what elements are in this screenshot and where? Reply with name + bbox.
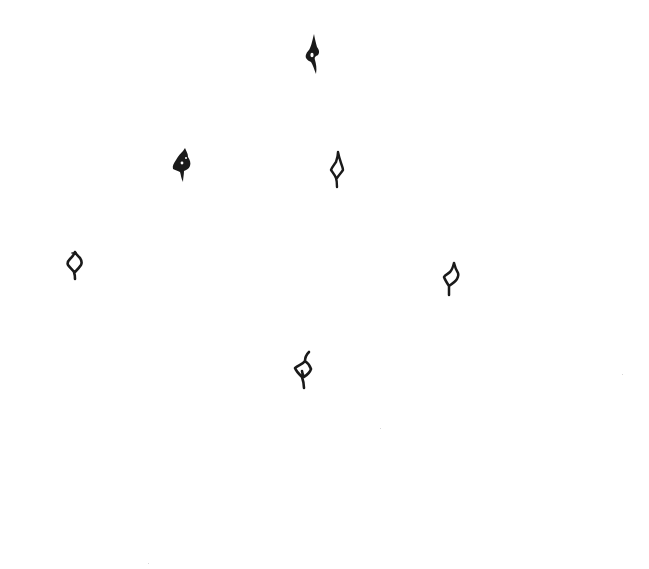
sparkle-outline-icon bbox=[66, 251, 83, 280]
sparkle-outline-icon bbox=[329, 151, 345, 188]
scan-speck bbox=[148, 563, 149, 564]
sparkle-filled-icon bbox=[304, 34, 322, 74]
sparkle-glyph-6-icon bbox=[293, 351, 314, 389]
sparkle-glyph-5-icon bbox=[441, 262, 461, 296]
sparkle-filled-icon bbox=[172, 148, 192, 182]
sparkle-glyph-1-icon bbox=[304, 34, 322, 74]
sparkle-glyph-4-icon bbox=[66, 251, 83, 280]
scan-speck bbox=[380, 428, 381, 429]
sparkle-glyph-3-icon bbox=[329, 151, 345, 188]
sparkle-glyph-2-icon bbox=[172, 148, 192, 182]
scan-speck bbox=[622, 374, 623, 375]
sparkle-outline-icon bbox=[293, 351, 314, 389]
sparkle-outline-icon bbox=[441, 262, 461, 296]
drawing-canvas bbox=[0, 0, 649, 569]
